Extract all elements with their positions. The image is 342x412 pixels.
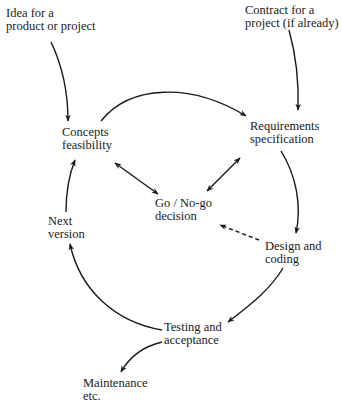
arrow-testing-to-maintenance xyxy=(121,342,162,372)
node-design-line2: coding xyxy=(265,253,322,266)
node-next-version: Next version xyxy=(48,215,85,241)
arrow-idea-to-concepts xyxy=(51,42,68,121)
node-idea: Idea for a product or project xyxy=(6,7,96,33)
node-idea-line2: product or project xyxy=(6,20,96,33)
arrow-testing-to-next-version xyxy=(70,244,162,330)
arrow-next-version-to-concepts xyxy=(66,160,75,212)
node-concepts-line2: feasibility xyxy=(62,139,112,152)
node-testing: Testing and acceptance xyxy=(164,321,222,347)
node-next-version-line2: version xyxy=(48,228,85,241)
node-maintenance: Maintenance etc. xyxy=(83,377,148,403)
arrow-concepts-to-requirements xyxy=(101,92,246,121)
arrow-design-to-go-nogo-dashed xyxy=(220,225,259,240)
node-contract-line2: project (if already) xyxy=(245,17,339,30)
node-requirements: Requirements specification xyxy=(250,120,319,146)
arrow-contract-to-requirements xyxy=(289,30,298,110)
node-concepts: Concepts feasibility xyxy=(62,126,112,152)
node-maintenance-line2: etc. xyxy=(83,390,148,403)
node-go-nogo: Go / No-go decision xyxy=(155,197,212,223)
arrow-design-to-testing xyxy=(228,268,283,322)
node-requirements-line2: specification xyxy=(250,133,319,146)
arrow-requirements-to-design xyxy=(281,151,298,233)
arrow-concepts-go-nogo xyxy=(115,163,158,194)
node-go-nogo-line2: decision xyxy=(155,210,212,223)
node-design: Design and coding xyxy=(265,240,322,266)
arrow-go-nogo-requirements xyxy=(207,158,240,191)
node-testing-line2: acceptance xyxy=(164,334,222,347)
node-contract: Contract for a project (if already) xyxy=(245,4,339,30)
lifecycle-diagram: Idea for a product or project Contract f… xyxy=(0,0,342,412)
